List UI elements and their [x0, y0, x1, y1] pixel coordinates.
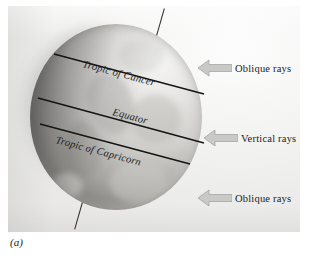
ray-vertical: Vertical rays — [204, 128, 296, 148]
ray-oblique-top-label: Oblique rays — [235, 63, 291, 74]
ray-oblique-bottom-label: Oblique rays — [235, 193, 291, 204]
figure-caption: (a) — [10, 236, 23, 248]
ray-oblique-top: Oblique rays — [198, 58, 291, 78]
ray-vertical-label: Vertical rays — [241, 133, 296, 144]
photo-plate: Tropic of Cancer Equator Tropic of Capri… — [8, 6, 300, 232]
left-arrow-icon — [198, 58, 232, 78]
figure-globe-illumination: Tropic of Cancer Equator Tropic of Capri… — [0, 0, 314, 259]
ray-oblique-bottom: Oblique rays — [198, 188, 291, 208]
left-arrow-icon — [198, 188, 232, 208]
left-arrow-icon — [204, 128, 238, 148]
